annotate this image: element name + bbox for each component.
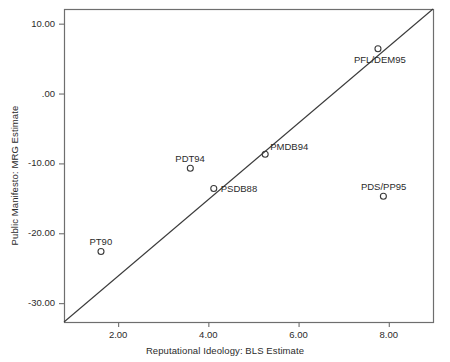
data-point-marker <box>380 193 386 199</box>
x-axis-tick-label: 6.00 <box>275 329 323 340</box>
y-axis-tick-label: 10.00 <box>7 18 55 29</box>
x-axis-tick-label: 8.00 <box>365 329 413 340</box>
y-axis-title: Public Manifesto: MRG Estimate <box>9 76 20 276</box>
x-axis-tick-label: 2.00 <box>94 329 142 340</box>
data-point-label: PDS/PP95 <box>361 181 406 192</box>
data-point-label: PFL/DEM95 <box>354 54 406 65</box>
data-point-marker <box>375 46 381 52</box>
x-axis-title: Reputational Ideology: BLS Estimate <box>0 345 450 356</box>
x-axis-tick-label: 4.00 <box>184 329 232 340</box>
data-point-label: PSDB88 <box>221 183 257 194</box>
data-point-label: PDT94 <box>175 153 205 164</box>
scatter-plot-figure: Public Manifesto: MRG Estimate Reputatio… <box>0 0 450 362</box>
data-point-marker <box>211 186 217 192</box>
data-point-label: PT90 <box>89 236 112 247</box>
data-point-marker <box>262 151 268 157</box>
data-point-marker <box>187 165 193 171</box>
y-axis-tick-label: -20.00 <box>7 227 55 238</box>
y-axis-tick-label: -10.00 <box>7 157 55 168</box>
y-axis-tick-label: .00 <box>7 88 55 99</box>
y-axis-tick-label: -30.00 <box>7 297 55 308</box>
data-point-label: PMDB94 <box>270 141 308 152</box>
data-point-marker <box>98 248 104 254</box>
